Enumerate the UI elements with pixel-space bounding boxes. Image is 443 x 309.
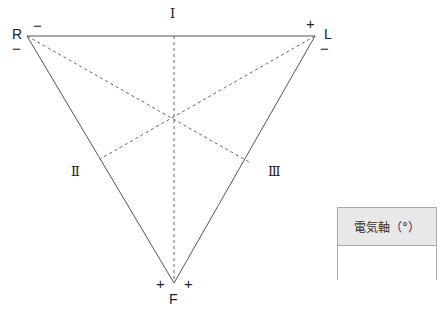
bisector-r — [27, 36, 249, 162]
vertex-l-label: L — [324, 27, 332, 41]
vertex-f-sign-right: + — [184, 276, 193, 291]
electrical-axis-table: 電気軸（°） — [337, 207, 437, 280]
vertex-r-sign-top: − — [33, 18, 42, 33]
lead-i-label: Ⅰ — [170, 7, 175, 20]
electrical-axis-header: 電気軸（°） — [338, 208, 436, 246]
vertex-r-label: R — [12, 27, 22, 41]
lead-ii-side — [27, 36, 174, 283]
bisector-l — [100, 36, 315, 159]
vertex-r-sign-bottom: − — [12, 41, 21, 56]
electrical-axis-value[interactable] — [338, 246, 436, 281]
lead-ii-label: Ⅱ — [71, 165, 80, 178]
vertex-f-label: F — [169, 292, 178, 306]
vertex-l-sign-top: + — [306, 16, 315, 31]
vertex-l-sign-bottom: − — [320, 41, 329, 56]
vertex-f-sign-left: + — [156, 276, 165, 291]
lead-iii-label: Ⅲ — [268, 165, 281, 178]
lead-iii-side — [174, 36, 315, 283]
